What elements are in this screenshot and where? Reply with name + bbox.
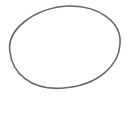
- ellipse-outline: [10, 6, 120, 88]
- drawing-canvas: [0, 0, 132, 114]
